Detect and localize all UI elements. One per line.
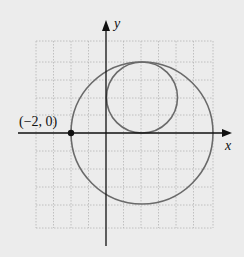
grid (36, 41, 213, 228)
y-axis-arrow-icon (102, 20, 110, 31)
axes (18, 26, 226, 246)
y-axis-label: y (114, 16, 120, 32)
point-marker (68, 130, 74, 136)
point-label: (−2, 0) (19, 114, 57, 130)
x-axis-label: x (225, 138, 231, 154)
x-axis-arrow-icon (222, 129, 232, 137)
small-circle (107, 62, 178, 133)
